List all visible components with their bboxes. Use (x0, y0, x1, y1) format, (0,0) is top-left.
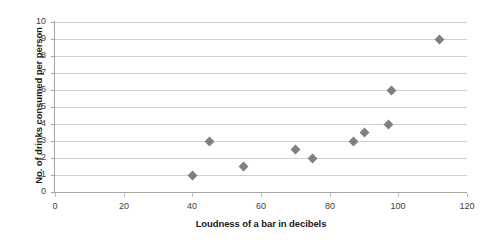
data-point (435, 34, 445, 44)
scatter-chart: No. of drinks consumed per person Loudne… (0, 0, 494, 242)
data-point (187, 170, 197, 180)
data-point (308, 153, 318, 163)
data-point (349, 136, 359, 146)
data-point (239, 162, 249, 172)
data-point (205, 136, 215, 146)
data-points (0, 0, 494, 242)
data-point (359, 128, 369, 138)
data-point (290, 145, 300, 155)
data-point (383, 119, 393, 129)
data-point (387, 85, 397, 95)
